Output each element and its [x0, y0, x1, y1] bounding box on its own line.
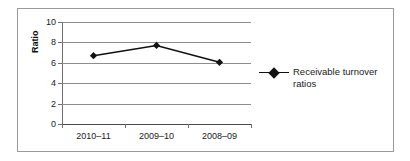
- y-axis-tick-label: 6: [51, 58, 56, 67]
- y-axis-tick-label: 2: [51, 99, 56, 108]
- plot-area: 0246810 2010–112009–102008–09: [62, 22, 251, 124]
- y-axis-tick-label: 10: [46, 18, 56, 27]
- x-axis-tick-label: 2009–10: [139, 132, 174, 141]
- legend-diamond-marker-icon: [259, 67, 289, 78]
- y-axis-title: Ratio: [30, 31, 40, 54]
- gridline: [62, 124, 251, 125]
- data-point-marker: [216, 59, 223, 66]
- chart-legend: Receivable turnover ratios: [259, 66, 399, 90]
- y-axis-tick-label: 0: [51, 120, 56, 129]
- x-axis-tick: [188, 124, 189, 128]
- y-axis-tick-label: 4: [51, 79, 56, 88]
- series-plot: [62, 22, 251, 124]
- x-axis-tick-label: 2008–09: [202, 132, 237, 141]
- x-axis-tick: [251, 124, 252, 128]
- chart-frame: Ratio 0246810 2010–112009–102008–09 Rece…: [17, 8, 394, 152]
- chart-screenshot: Ratio 0246810 2010–112009–102008–09 Rece…: [0, 0, 410, 161]
- y-axis-tick-label: 8: [51, 38, 56, 47]
- x-axis-tick: [62, 124, 63, 128]
- data-point-marker: [90, 52, 97, 59]
- legend-item-label: Receivable turnover ratios: [293, 66, 399, 90]
- x-axis-tick-label: 2010–11: [76, 132, 110, 141]
- x-axis-tick: [125, 124, 126, 128]
- data-point-marker: [153, 42, 160, 49]
